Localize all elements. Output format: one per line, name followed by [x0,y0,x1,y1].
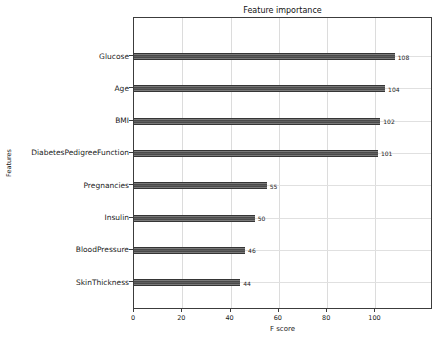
bar-value-label: 102 [383,118,394,125]
bar [134,85,385,92]
bar-value-label: 104 [388,85,399,92]
category-label: Glucose [0,51,129,60]
y-tick-mark [129,55,133,56]
bar [134,182,267,189]
y-tick-mark [129,184,133,185]
x-tick-mark [181,309,182,312]
y-tick-mark [129,120,133,121]
y-tick-mark [129,152,133,153]
bar [134,279,240,286]
gridline-v [231,18,232,308]
plot-area: 10810410210155504644 [133,17,432,309]
x-tick-label: 80 [322,314,330,322]
category-label: DiabetesPedigreeFunction [0,148,129,157]
gridline-v [182,18,183,308]
bar-value-label: 101 [381,150,392,157]
x-tick-label: 20 [177,314,185,322]
bar [134,118,380,125]
category-label: Insulin [0,213,129,222]
bar [134,150,378,157]
bar [134,247,245,254]
y-tick-mark [129,249,133,250]
y-tick-mark [129,281,133,282]
x-tick-label: 100 [368,314,380,322]
gridline-v [327,18,328,308]
x-tick-mark [374,309,375,312]
category-label: Age [0,83,129,92]
x-tick-mark [326,309,327,312]
gridline-v [375,18,376,308]
bar-value-label: 46 [248,247,256,254]
bar [134,215,255,222]
bar [134,53,395,60]
category-label: BloodPressure [0,245,129,254]
x-tick-label: 60 [274,314,282,322]
x-tick-label: 40 [225,314,233,322]
category-label: SkinThickness [0,277,129,286]
x-axis-label: F score [133,325,432,333]
y-tick-mark [129,87,133,88]
category-label: BMI [0,116,129,125]
x-tick-label: 0 [131,314,135,322]
gridline-v [279,18,280,308]
category-label: Pregnancies [0,180,129,189]
bar-value-label: 108 [398,53,409,60]
y-tick-mark [129,217,133,218]
x-tick-mark [133,309,134,312]
bar-value-label: 55 [270,182,278,189]
x-tick-mark [278,309,279,312]
bar-value-label: 50 [258,215,266,222]
x-tick-mark [230,309,231,312]
figure: Feature importance Features 108104102101… [0,0,438,342]
chart-title: Feature importance [133,6,432,15]
bar-value-label: 44 [243,279,251,286]
